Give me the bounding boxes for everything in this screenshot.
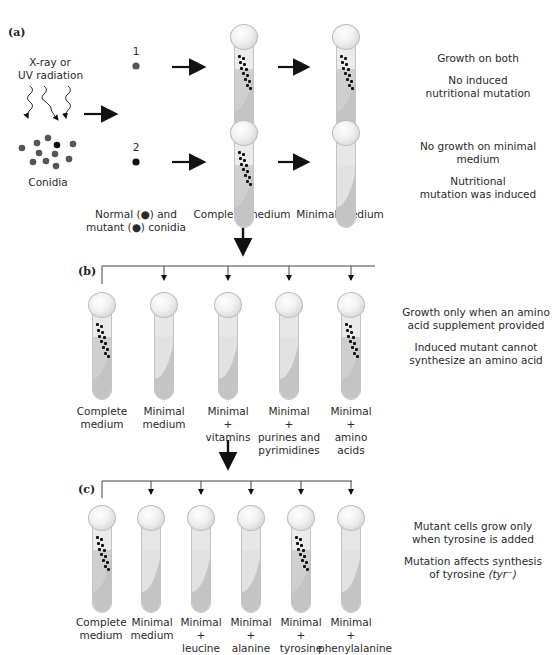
label-line: vitamins (198, 431, 258, 444)
label-line: Minimal (321, 405, 381, 418)
c-desc-line2a: Mutation affects synthesis (404, 555, 542, 567)
label-line: + (227, 629, 275, 642)
label-b-purines: Minimal+purines andpyrimidines (254, 405, 324, 457)
row2-description: No growth on minimalmedium Nutritionalmu… (400, 140, 556, 210)
label-b-vitamins: Minimal+vitamins (198, 405, 258, 444)
label-line: + (177, 629, 225, 642)
label-line: + (254, 418, 324, 431)
row2-desc-line1a: No growth on minimal (420, 140, 536, 152)
legend-line2: mutant (●) conidia (86, 221, 186, 234)
tube-c-leucine (189, 505, 213, 613)
row2-desc-line2a: Nutritional (450, 175, 505, 187)
label-line: pyrimidines (254, 444, 324, 457)
tube-cap (137, 505, 165, 531)
label-line: Complete (72, 405, 132, 418)
tube-cap (187, 505, 215, 531)
label-b-amino-acids: Minimal+aminoacids (321, 405, 381, 457)
label-b-minimal: Minimalmedium (134, 405, 194, 431)
tube-cap (332, 24, 360, 50)
label-line: Minimal (177, 616, 225, 629)
label-line: medium (128, 629, 176, 642)
label-line: + (198, 418, 258, 431)
label-line: Minimal (254, 405, 324, 418)
tube-cap (287, 505, 315, 531)
tube-b-vitamins (216, 292, 240, 400)
mutant-conidium-icon (132, 158, 139, 165)
label-c-phenylalanine: Minimal+phenylalanine (318, 616, 384, 655)
label-line: purines and (254, 431, 324, 444)
c-desc-line1b: when tyrosine is added (412, 533, 534, 545)
c-desc-line2b: of tyrosine (429, 568, 488, 580)
tube-cap (230, 120, 258, 146)
c-desc-line1a: Mutant cells grow only (414, 520, 533, 532)
legend-line1: Normal (●) and (86, 208, 186, 221)
tube-cap (337, 505, 365, 531)
label-line: alanine (227, 642, 275, 655)
tube-c-tyrosine (289, 505, 313, 613)
conidia-cluster-icon (19, 135, 77, 170)
tube-cap (88, 505, 116, 531)
tube-c-alanine (239, 505, 263, 613)
label-line: Minimal (227, 616, 275, 629)
label-line: medium (76, 629, 126, 642)
normal-conidium-icon (132, 62, 139, 69)
tube-a-row1-minimal (334, 24, 358, 132)
tube-cap (237, 505, 265, 531)
label-line: Minimal (134, 405, 194, 418)
label-line: phenylalanine (318, 642, 384, 655)
tube-b-amino-acids (339, 292, 363, 400)
panel-b-description: Growth only when an aminoacid supplement… (396, 306, 556, 376)
c-desc-genotype: (tyr⁻) (488, 568, 516, 580)
row1-desc-line2b: nutritional mutation (425, 87, 530, 99)
tube-c-phenylalanine (339, 505, 363, 613)
label-c-alanine: Minimal+alanine (227, 616, 275, 655)
label-line: Minimal (128, 616, 176, 629)
tube-cap (332, 120, 360, 146)
label-line: medium (134, 418, 194, 431)
row2-desc-line2b: mutation was induced (420, 188, 537, 200)
label-c-complete: Completemedium (76, 616, 126, 642)
tube-cap (230, 24, 258, 50)
tube-cap (337, 292, 365, 318)
tube-cap (214, 292, 242, 318)
label-line: + (318, 629, 384, 642)
label-line: Complete (76, 616, 126, 629)
tube-c-minimal (139, 505, 163, 613)
radiation-wave-icons (27, 86, 70, 120)
label-line: Minimal (198, 405, 258, 418)
row2-number: 2 (130, 141, 142, 154)
conidia-legend: Normal (●) and mutant (●) conidia (86, 208, 186, 234)
row1-desc-line2a: No induced (448, 74, 507, 86)
panel-c-bracket (102, 481, 352, 498)
label-line: amino (321, 431, 381, 444)
label-c-leucine: Minimal+leucine (177, 616, 225, 655)
tube-a-row2-complete (232, 120, 256, 228)
row1-description: Growth on both No inducednutritional mut… (400, 52, 556, 109)
tube-b-purines-pyrimidines (277, 292, 301, 400)
tube-c-complete (90, 505, 114, 613)
tube-cap (275, 292, 303, 318)
panel-c-label: (c) (78, 483, 95, 496)
conidia-label: Conidia (16, 176, 80, 189)
label-line: medium (72, 418, 132, 431)
tube-a-row1-complete (232, 24, 256, 132)
label-line: Minimal (318, 616, 384, 629)
label-b-complete: Completemedium (72, 405, 132, 431)
panel-b-bracket (102, 266, 375, 284)
label-line: acids (321, 444, 381, 457)
label-c-minimal: Minimalmedium (128, 616, 176, 642)
label-line: + (321, 418, 381, 431)
row2-desc-line1b: medium (456, 153, 499, 165)
tube-cap (150, 292, 178, 318)
b-desc-line2a: Induced mutant cannot (415, 341, 538, 353)
tube-a-row2-minimal-no-growth (334, 120, 358, 228)
tube-b-minimal (152, 292, 176, 400)
tube-b-complete (90, 292, 114, 400)
b-desc-line2b: synthesize an amino acid (409, 354, 542, 366)
row1-number: 1 (130, 45, 142, 58)
tube-cap (88, 292, 116, 318)
panel-b-label: (b) (78, 265, 96, 278)
b-desc-line1a: Growth only when an amino (402, 306, 550, 318)
label-line: leucine (177, 642, 225, 655)
b-desc-line1b: acid supplement provided (408, 319, 545, 331)
